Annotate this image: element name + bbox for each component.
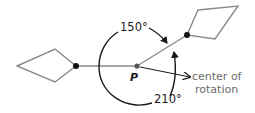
annotation-line-1: center of — [192, 70, 243, 83]
rotation-diagram: 150° 210° P center of rotation — [0, 0, 255, 113]
vertex-dot-original — [73, 63, 79, 69]
center-pointer-arrow — [140, 67, 190, 77]
rotated-kite — [187, 6, 238, 39]
center-label: P — [130, 71, 138, 84]
annotation-line-2: rotation — [195, 83, 238, 96]
arc-150-arrow — [149, 28, 167, 43]
segment-rotated — [137, 35, 187, 66]
angle-150-label: 150° — [120, 20, 148, 34]
angle-210-label: 210° — [154, 92, 182, 106]
arc-150 — [99, 32, 118, 66]
vertex-dot-rotated — [184, 32, 190, 38]
original-kite — [17, 49, 76, 82]
arc-210 — [99, 66, 152, 105]
diagram-canvas: 150° 210° P center of rotation — [0, 0, 255, 113]
center-point — [134, 63, 139, 68]
